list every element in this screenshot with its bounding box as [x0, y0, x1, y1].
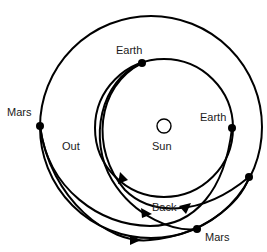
- mars-dot-right: [245, 173, 253, 181]
- back-label: Back: [152, 201, 177, 213]
- transfer-orbit-diagram: Earth Earth Mars Mars Sun Out Back: [0, 0, 267, 252]
- sun-icon: [157, 119, 171, 133]
- mars-arrive-label: Mars: [205, 231, 230, 243]
- out-label: Out: [62, 140, 80, 152]
- mars-depart-dot: [36, 122, 44, 130]
- earth-depart-dot: [138, 59, 146, 67]
- earth-arrive-label: Earth: [200, 111, 226, 123]
- arrow-head-1: [118, 172, 128, 184]
- mars-arrive-dot: [193, 225, 201, 233]
- sun-label: Sun: [152, 140, 172, 152]
- out-transfer-path-2: [103, 63, 249, 208]
- earth-depart-label: Earth: [116, 44, 142, 56]
- mars-depart-label: Mars: [7, 106, 32, 118]
- earth-arrive-dot: [228, 124, 236, 132]
